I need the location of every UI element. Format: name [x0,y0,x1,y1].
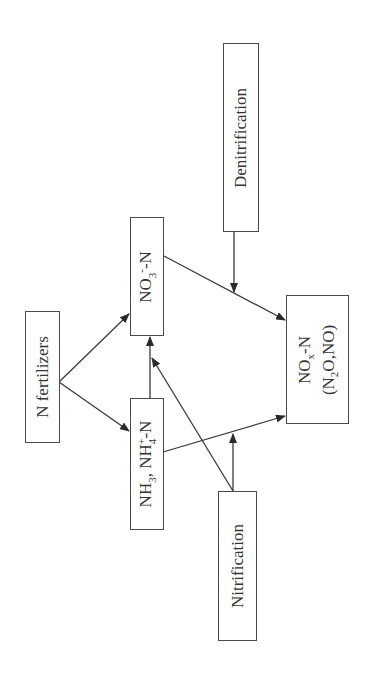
node-nitrification-label: Nitrification [227,524,248,608]
arrow-fertilizers-to-nitrate [59,314,129,382]
node-ammonia: NH3, NH4+-N [130,398,164,530]
node-nitrate: NO3--N [130,217,164,336]
node-ammonia-label: NH3, NH4+-N [135,421,160,508]
node-nox-label: NOx-N (N2O,NO) [293,324,341,394]
arrow-nitrate-to-nox [164,256,285,320]
node-nitrification: Nitrification [218,491,257,641]
node-nitrate-label: NO3--N [135,251,160,303]
node-nox-line1: NOx-N [293,324,317,394]
node-n-fertilizers-label: N fertilizers [32,336,53,418]
arrow-ammonia-to-nox [163,416,285,452]
arrow-fertilizers-to-ammonia [59,382,129,431]
arrow-nitrification-to-nitrate-path [152,358,233,491]
node-denitrification: Denitrification [223,43,259,232]
node-nox-line2: (N2O,NO) [318,324,342,394]
node-n-fertilizers: N fertilizers [25,311,60,443]
node-nox: NOx-N (N2O,NO) [286,295,349,424]
nitrogen-cycle-diagram: N fertilizers NO3--N NH3, NH4+-N NOx-N (… [0,0,372,683]
node-denitrification-label: Denitrification [230,87,251,187]
